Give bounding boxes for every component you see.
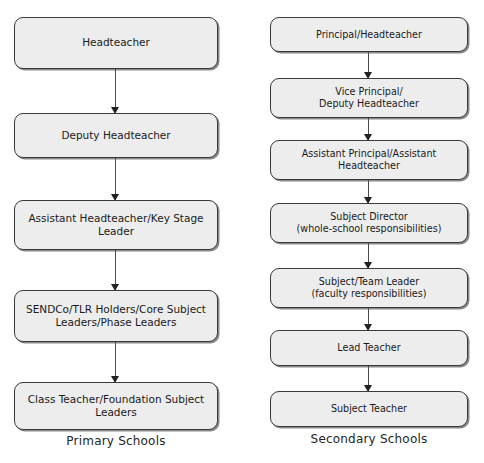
node-secondary-1[interactable]: Principal/Headteacher xyxy=(270,17,468,52)
node-secondary-3-label: Assistant Principal/Assistant Headteache… xyxy=(302,148,437,172)
org-hierarchy-diagram: Headteacher Deputy Headteacher Assistant… xyxy=(0,0,484,463)
node-secondary-6[interactable]: Lead Teacher xyxy=(270,330,468,366)
primary-schools-caption: Primary Schools xyxy=(14,434,218,448)
node-secondary-5[interactable]: Subject/Team Leader (faculty responsibil… xyxy=(270,268,468,308)
connector-secondary-5 xyxy=(364,308,373,330)
node-secondary-7-label: Subject Teacher xyxy=(331,403,407,415)
node-secondary-1-label: Principal/Headteacher xyxy=(316,29,422,41)
secondary-schools-caption: Secondary Schools xyxy=(270,432,468,446)
node-primary-1-label: Headteacher xyxy=(82,36,150,49)
connector-secondary-1 xyxy=(364,52,373,78)
node-secondary-7[interactable]: Subject Teacher xyxy=(270,391,468,427)
node-secondary-5-label: Subject/Team Leader (faculty responsibil… xyxy=(311,276,426,300)
node-primary-2-label: Deputy Headteacher xyxy=(61,129,170,142)
connector-secondary-6 xyxy=(364,366,373,391)
node-primary-1[interactable]: Headteacher xyxy=(14,17,218,69)
connector-primary-1 xyxy=(111,69,120,113)
connector-primary-4 xyxy=(111,342,120,382)
node-secondary-6-label: Lead Teacher xyxy=(337,342,400,354)
node-primary-3-label: Assistant Headteacher/Key Stage Leader xyxy=(28,212,203,238)
node-secondary-2-label: Vice Principal/ Deputy Headteacher xyxy=(319,86,419,110)
node-primary-5-label: Class Teacher/Foundation Subject Leaders xyxy=(28,393,204,419)
connector-secondary-3 xyxy=(364,180,373,203)
connector-secondary-4 xyxy=(364,243,373,268)
node-primary-4-label: SENDCo/TLR Holders/Core Subject Leaders/… xyxy=(26,303,206,329)
node-secondary-4-label: Subject Director (whole-school responsib… xyxy=(297,211,442,235)
node-secondary-3[interactable]: Assistant Principal/Assistant Headteache… xyxy=(270,140,468,180)
node-primary-4[interactable]: SENDCo/TLR Holders/Core Subject Leaders/… xyxy=(14,290,218,342)
node-primary-2[interactable]: Deputy Headteacher xyxy=(14,113,218,158)
node-secondary-2[interactable]: Vice Principal/ Deputy Headteacher xyxy=(270,78,468,118)
node-primary-5[interactable]: Class Teacher/Foundation Subject Leaders xyxy=(14,382,218,430)
connector-primary-3 xyxy=(111,250,120,290)
connector-primary-2 xyxy=(111,158,120,200)
connector-secondary-2 xyxy=(364,118,373,140)
node-primary-3[interactable]: Assistant Headteacher/Key Stage Leader xyxy=(14,200,218,250)
node-secondary-4[interactable]: Subject Director (whole-school responsib… xyxy=(270,203,468,243)
